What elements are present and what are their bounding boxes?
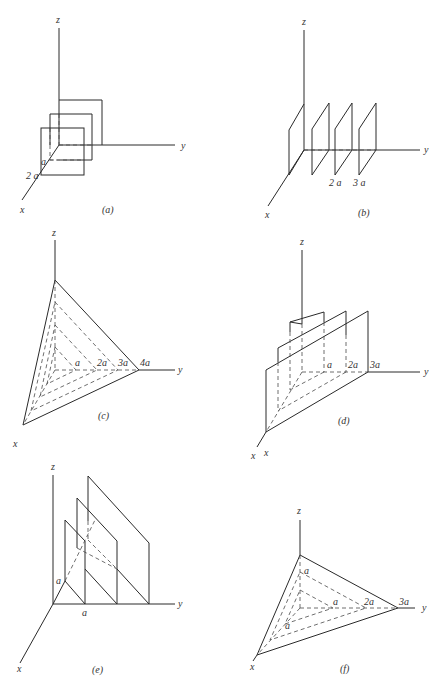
z-axis-label: z: [51, 227, 56, 238]
tick-label: 2a: [348, 359, 358, 370]
panel-f: x x y z a a 2a 3a a (f): [249, 450, 427, 675]
y-axis-label: y: [423, 366, 429, 377]
tick-label: 3a: [117, 357, 128, 368]
caption: (c): [98, 410, 110, 422]
x-axis-label: x: [12, 438, 18, 449]
tick-label: a: [75, 357, 80, 368]
y-axis-label: y: [423, 144, 429, 155]
plane-a: [285, 590, 333, 624]
plane-2: [77, 498, 117, 604]
tick-label: 2 a: [329, 177, 342, 188]
tick-label: a: [82, 607, 87, 618]
x-axis-label: x: [264, 209, 270, 220]
y-axis-label: y: [421, 602, 427, 613]
y-axis-label: y: [177, 598, 183, 609]
tick-label: 2a: [364, 596, 374, 607]
tick-label: a: [285, 620, 290, 631]
caption: (b): [358, 207, 370, 219]
tick-label: 2a: [97, 357, 107, 368]
caption: (f): [340, 663, 350, 675]
z-axis-label: z: [296, 505, 301, 516]
tick-label: 3 a: [352, 177, 366, 188]
z-axis-label: z: [299, 236, 304, 247]
y-axis-label: y: [180, 140, 186, 151]
tick-label: a: [41, 156, 46, 167]
plane-2: [312, 103, 329, 175]
plane-3: [335, 103, 352, 175]
back-square: [59, 100, 102, 145]
plane-2a: [40, 325, 97, 397]
middle-square: [50, 114, 92, 160]
tick-label: a: [304, 565, 309, 576]
caption: (e): [92, 664, 104, 676]
z-axis-label: z: [301, 16, 306, 27]
tick-label: a: [56, 575, 61, 586]
x-axis-label: x: [19, 204, 25, 215]
panel-e: x y z a a (e): [16, 461, 183, 676]
tick-label: 3a: [369, 359, 380, 370]
tick-label: 4a: [140, 357, 150, 368]
panel-b: x y z 2 a 3 a (b): [264, 16, 429, 220]
plane-3: [88, 476, 149, 604]
caption: (d): [338, 415, 350, 427]
panel-d: x y z a 2a 3a (d): [257, 236, 429, 458]
plane-3a: [266, 311, 368, 432]
plane-2a: [278, 311, 346, 362]
tick-label: 3a: [398, 596, 409, 607]
plane-a: [47, 347, 76, 384]
panel-c: x y z a 2a 3a 4a (c): [12, 227, 183, 449]
figure-canvas: x y z a 2 a (a) x y z 2 a 3 a (b): [0, 0, 440, 678]
plane-a: [290, 312, 324, 332]
x-axis: [20, 604, 53, 663]
x-axis: [257, 432, 266, 447]
tick-label: 2 a: [26, 170, 39, 181]
z-axis-label: z: [50, 461, 55, 472]
caption: (a): [102, 204, 114, 216]
tick-label: a: [333, 596, 338, 607]
panel-a: x y z a 2 a (a): [19, 14, 186, 216]
y-axis-label: y: [177, 364, 183, 375]
plane-1: [289, 104, 304, 175]
stray-x-label: x: [250, 450, 256, 461]
z-axis-label: z: [55, 14, 60, 25]
x-axis-label: x: [249, 661, 255, 672]
tick-label: a: [327, 359, 332, 370]
front-square: [41, 128, 84, 175]
plane-1: [65, 520, 85, 604]
plane-4: [359, 103, 376, 175]
x-axis-label: x: [16, 663, 22, 674]
x-axis-label: x: [263, 447, 269, 458]
